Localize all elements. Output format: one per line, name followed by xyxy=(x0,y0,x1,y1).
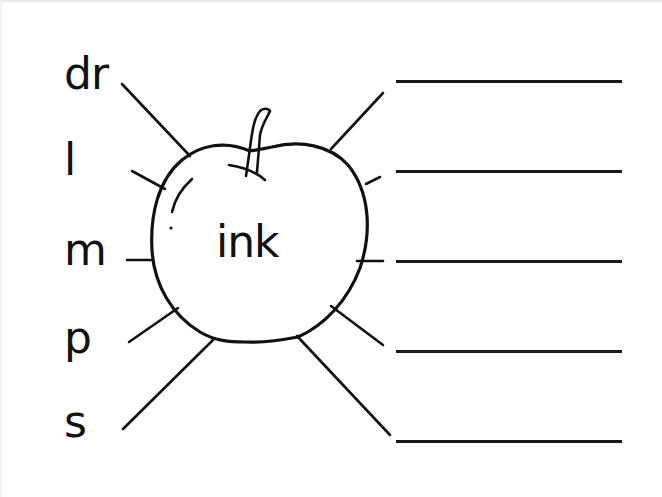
center-word: ink xyxy=(216,220,279,264)
onset-dr: dr xyxy=(64,52,108,96)
spoke-p xyxy=(129,308,178,342)
onset-l: l xyxy=(64,138,75,182)
answer-line-2[interactable] xyxy=(396,170,622,173)
answer-line-1[interactable] xyxy=(396,80,622,83)
onset-s: s xyxy=(64,400,86,444)
answer-line-5[interactable] xyxy=(396,440,622,443)
onset-p: p xyxy=(64,316,91,360)
answer-line-4[interactable] xyxy=(396,350,622,353)
answer-line-3[interactable] xyxy=(396,260,622,263)
spoke-l xyxy=(132,171,165,189)
spoke-dr xyxy=(122,84,190,156)
onset-m: m xyxy=(64,228,106,272)
spoke-s xyxy=(123,340,213,429)
spoke-right-4 xyxy=(331,306,383,345)
spoke-right-2 xyxy=(366,177,380,184)
spoke-right-5 xyxy=(297,336,390,435)
spoke-right-1 xyxy=(331,93,383,149)
